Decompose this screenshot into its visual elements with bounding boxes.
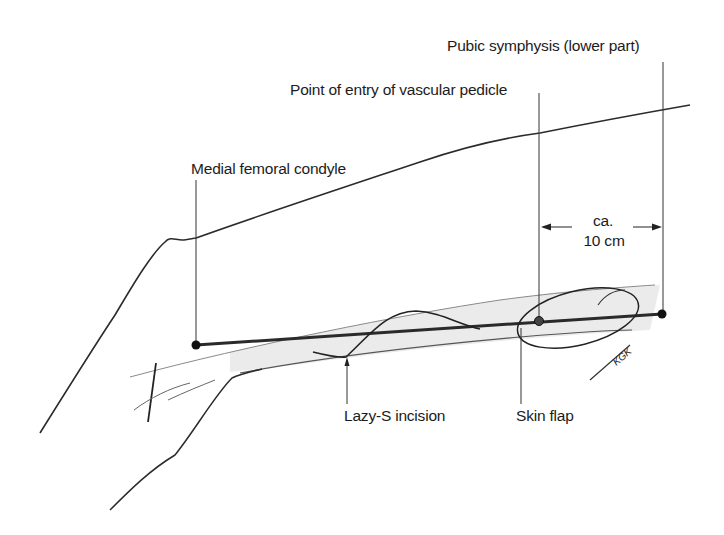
label-vascular-pedicle: Point of entry of vascular pedicle [290,82,507,98]
upper-leg-contour [40,105,690,433]
lower-leg-contour [110,369,262,510]
dot-medial-condyle [192,341,201,350]
label-pubic-symphysis: Pubic symphysis (lower part) [447,38,640,54]
arrowhead-left-icon [541,224,551,231]
arrowhead-right-icon [652,224,662,231]
arrowhead-up-icon [345,357,350,366]
diagram-canvas: Pubic symphysis (lower part) Point of en… [0,0,724,535]
label-distance-value: 10 cm [583,233,624,249]
dot-vascular-pedicle [535,317,544,326]
label-lazy-s-incision: Lazy-S incision [344,408,445,424]
knee-stroke [168,380,215,400]
dot-pubic-symphysis [658,310,667,319]
label-medial-condyle: Medial femoral condyle [191,161,346,177]
knee-stroke [134,383,190,410]
label-distance-ca: ca. [593,213,613,229]
label-skin-flap: Skin flap [516,408,574,424]
